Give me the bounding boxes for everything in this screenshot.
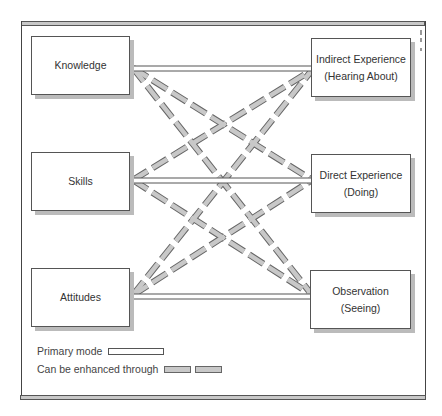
- node-attitudes: Attitudes: [31, 268, 130, 327]
- node-label: Knowledge: [55, 57, 107, 74]
- legend-enhanced: Can be enhanced through: [37, 363, 222, 375]
- node-label-line2: (Seeing): [341, 300, 381, 317]
- node-skills: Skills: [31, 152, 130, 211]
- legend-primary: Primary mode: [37, 345, 164, 357]
- node-observation: Observation (Seeing): [310, 270, 411, 329]
- node-label-line1: Direct Experience: [320, 167, 403, 184]
- node-label-line2: (Hearing About): [324, 68, 398, 85]
- node-direct-experience: Direct Experience (Doing): [311, 154, 411, 213]
- margin-mark: [420, 38, 422, 42]
- node-label-line1: Observation: [332, 283, 389, 300]
- node-label: Skills: [68, 173, 93, 190]
- node-label: Attitudes: [60, 289, 101, 306]
- dashed-line-swatch: [164, 366, 191, 373]
- node-label-line2: (Doing): [344, 184, 378, 201]
- margin-mark: [420, 48, 422, 51]
- node-indirect-experience: Indirect Experience (Hearing About): [311, 38, 411, 97]
- node-knowledge: Knowledge: [31, 36, 130, 95]
- legend-enhanced-label: Can be enhanced through: [37, 363, 158, 375]
- dashed-line-swatch: [195, 366, 222, 373]
- legend-primary-label: Primary mode: [37, 345, 102, 357]
- solid-line-swatch: [108, 348, 164, 355]
- primary-edges: [132, 66, 313, 299]
- node-label-line1: Indirect Experience: [316, 51, 406, 68]
- margin-mark: [420, 30, 422, 35]
